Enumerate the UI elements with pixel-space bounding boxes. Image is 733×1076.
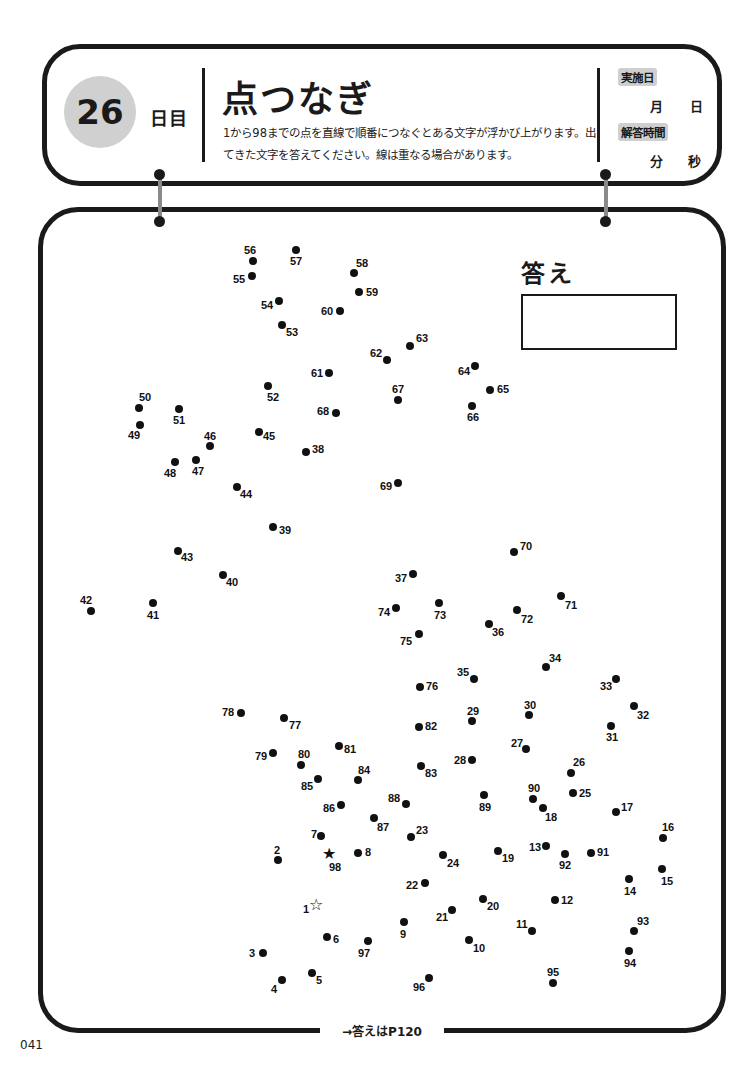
puzzle-dot[interactable]	[350, 269, 358, 277]
puzzle-dot[interactable]	[278, 976, 286, 984]
puzzle-dot[interactable]	[325, 369, 333, 377]
puzzle-dot[interactable]	[479, 895, 487, 903]
puzzle-dot[interactable]	[468, 756, 476, 764]
puzzle-dot[interactable]	[87, 607, 95, 615]
dot-number-label: 61	[311, 367, 323, 379]
puzzle-dot[interactable]	[292, 246, 300, 254]
puzzle-dot[interactable]	[394, 396, 402, 404]
puzzle-dot[interactable]	[494, 847, 502, 855]
puzzle-dot[interactable]	[354, 849, 362, 857]
puzzle-dot[interactable]	[314, 775, 322, 783]
puzzle-dot[interactable]	[448, 906, 456, 914]
puzzle-dot[interactable]	[383, 356, 391, 364]
puzzle-dot[interactable]	[607, 722, 615, 730]
puzzle-dot[interactable]	[425, 974, 433, 982]
puzzle-dot[interactable]	[528, 927, 536, 935]
puzzle-dot[interactable]	[561, 850, 569, 858]
puzzle-dot[interactable]	[337, 801, 345, 809]
puzzle-dot[interactable]	[192, 456, 200, 464]
puzzle-dot[interactable]	[406, 342, 414, 350]
puzzle-dot[interactable]	[280, 714, 288, 722]
puzzle-dot[interactable]	[435, 599, 443, 607]
puzzle-dot[interactable]	[323, 933, 331, 941]
puzzle-dot[interactable]	[612, 675, 620, 683]
puzzle-dot[interactable]	[332, 409, 340, 417]
dot-number-label: 12	[561, 894, 573, 906]
puzzle-dot[interactable]	[269, 523, 277, 531]
start-star-icon[interactable]: ☆	[309, 897, 323, 913]
puzzle-dot[interactable]	[557, 592, 565, 600]
puzzle-dot[interactable]	[171, 458, 179, 466]
puzzle-dot[interactable]	[297, 761, 305, 769]
answer-label: 答え	[521, 254, 575, 289]
puzzle-dot[interactable]	[364, 937, 372, 945]
puzzle-dot[interactable]	[259, 949, 267, 957]
puzzle-dot[interactable]	[149, 599, 157, 607]
puzzle-dot[interactable]	[625, 947, 633, 955]
puzzle-dot[interactable]	[308, 969, 316, 977]
puzzle-dot[interactable]	[302, 448, 310, 456]
puzzle-dot[interactable]	[400, 918, 408, 926]
puzzle-dot[interactable]	[274, 856, 282, 864]
puzzle-dot[interactable]	[415, 723, 423, 731]
puzzle-dot[interactable]	[625, 875, 633, 883]
puzzle-dot[interactable]	[335, 742, 343, 750]
dot-number-label: 89	[479, 801, 491, 813]
puzzle-dot[interactable]	[525, 711, 533, 719]
puzzle-dot[interactable]	[278, 321, 286, 329]
puzzle-dot[interactable]	[407, 833, 415, 841]
puzzle-dot[interactable]	[471, 362, 479, 370]
puzzle-dot[interactable]	[510, 548, 518, 556]
puzzle-dot[interactable]	[255, 428, 263, 436]
puzzle-dot[interactable]	[612, 808, 620, 816]
puzzle-dot[interactable]	[355, 288, 363, 296]
puzzle-dot[interactable]	[529, 795, 537, 803]
puzzle-dot[interactable]	[468, 717, 476, 725]
puzzle-dot[interactable]	[269, 749, 277, 757]
puzzle-dot[interactable]	[439, 851, 447, 859]
puzzle-dot[interactable]	[354, 776, 362, 784]
puzzle-dot[interactable]	[264, 382, 272, 390]
puzzle-dot[interactable]	[569, 789, 577, 797]
puzzle-dot[interactable]	[237, 709, 245, 717]
dot-number-label: 68	[317, 405, 329, 417]
puzzle-dot[interactable]	[486, 386, 494, 394]
puzzle-dot[interactable]	[336, 307, 344, 315]
puzzle-dot[interactable]	[480, 791, 488, 799]
second-unit: 秒	[688, 151, 701, 170]
puzzle-dot[interactable]	[567, 769, 575, 777]
puzzle-dot[interactable]	[549, 979, 557, 987]
puzzle-dot[interactable]	[317, 832, 325, 840]
puzzle-dot[interactable]	[513, 606, 521, 614]
puzzle-dot[interactable]	[135, 404, 143, 412]
puzzle-dot[interactable]	[409, 570, 417, 578]
puzzle-dot[interactable]	[658, 865, 666, 873]
puzzle-dot[interactable]	[470, 675, 478, 683]
puzzle-dot[interactable]	[551, 896, 559, 904]
puzzle-dot[interactable]	[136, 421, 144, 429]
puzzle-dot[interactable]	[249, 257, 257, 265]
puzzle-dot[interactable]	[415, 630, 423, 638]
puzzle-dot[interactable]	[659, 834, 667, 842]
puzzle-dot[interactable]	[542, 663, 550, 671]
puzzle-dot[interactable]	[630, 927, 638, 935]
end-star-icon[interactable]: ★	[322, 846, 336, 862]
puzzle-dot[interactable]	[421, 879, 429, 887]
puzzle-dot[interactable]	[392, 604, 400, 612]
puzzle-dot[interactable]	[402, 800, 410, 808]
puzzle-dot[interactable]	[394, 479, 402, 487]
puzzle-dot[interactable]	[275, 297, 283, 305]
puzzle-dot[interactable]	[416, 683, 424, 691]
answer-input-box[interactable]	[521, 294, 677, 350]
puzzle-dot[interactable]	[248, 272, 256, 280]
puzzle-dot[interactable]	[587, 849, 595, 857]
dot-number-label: 27	[511, 737, 523, 749]
puzzle-dot[interactable]	[468, 402, 476, 410]
puzzle-dot[interactable]	[417, 762, 425, 770]
header-divider-left	[202, 68, 205, 162]
puzzle-dot[interactable]	[175, 405, 183, 413]
date-tag: 実施日	[618, 68, 657, 86]
puzzle-dot[interactable]	[542, 842, 550, 850]
puzzle-dot[interactable]	[206, 442, 214, 450]
puzzle-dot[interactable]	[465, 936, 473, 944]
